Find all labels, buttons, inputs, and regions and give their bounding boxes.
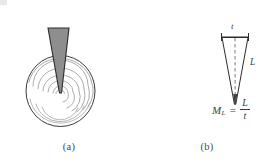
formula-denominator: t — [242, 110, 249, 121]
panel-b: t L ML = L t (b) — [138, 0, 276, 166]
panel-a: (a) — [0, 0, 138, 166]
formula-numerator: L — [240, 98, 250, 109]
formula-subscript: L — [221, 109, 225, 117]
panel-a-diagram — [0, 0, 138, 140]
figure-root: (a) t L ML = L t — [0, 0, 276, 166]
formula-expression: ML = L t — [212, 98, 250, 121]
cone-length-label: L — [250, 57, 255, 67]
panel-b-diagram — [138, 0, 276, 140]
cone-width-label: t — [231, 21, 234, 31]
panel-b-caption: (b) — [138, 141, 276, 152]
formula-equals: = — [230, 104, 237, 116]
panel-a-caption: (a) — [0, 141, 138, 152]
formula-fraction: L t — [240, 98, 250, 121]
